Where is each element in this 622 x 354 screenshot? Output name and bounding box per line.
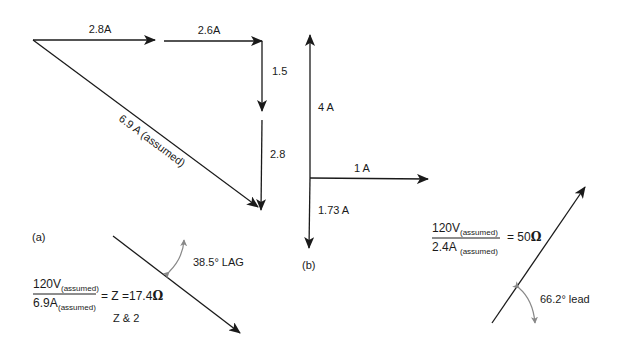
angle-arc-lead: [519, 288, 535, 323]
vector-4a-label: 4 A: [318, 101, 335, 113]
vector-2-8-label: 2.8: [270, 148, 285, 160]
vector-1-73a: [309, 178, 310, 248]
part-b-impedance-formula: 120V (assumed) 2.4A (assumed) = 50Ω: [432, 221, 542, 256]
impedance-result: = Z =17.4Ω: [101, 289, 163, 303]
vector-2-8a-label: 2.8A: [89, 23, 112, 35]
impedance-result: = 50Ω: [507, 230, 542, 244]
numerator: 120V: [432, 221, 460, 235]
vector-2-8: [261, 120, 262, 210]
vector-2-6a-label: 2.6A: [198, 24, 221, 36]
vector-1-73a-label: 1.73 A: [318, 204, 350, 216]
numerator: 120V: [33, 277, 61, 291]
vector-6-9a-resultant: [33, 40, 258, 207]
part-a-impedance-formula: 120V (assumed) 6.9A (assumed) = Z =17.4Ω…: [33, 277, 163, 324]
numerator-subscript: (assumed): [460, 228, 498, 237]
part-b-caption: (b): [302, 259, 315, 271]
part-b-phasors: 4 A 1 A 1.73 A: [309, 35, 428, 248]
part-b-impedance-phasor: 66.2° lead: [492, 187, 590, 323]
diagram-svg: 2.8A 2.6A 1.5 2.8 6.9 A (assumed) (a) 38…: [0, 0, 622, 354]
vector-1a-label: 1 A: [354, 162, 371, 174]
denominator-subscript: (assumed): [460, 247, 498, 256]
denominator: 6.9A: [33, 296, 58, 310]
vector-1-5-label: 1.5: [272, 65, 287, 77]
vector-6-9a-label: 6.9 A (assumed): [117, 112, 188, 169]
angle-label-lag: 38.5° LAG: [193, 256, 244, 268]
vector-1a: [310, 178, 428, 179]
angle-label-lead: 66.2° lead: [540, 293, 590, 305]
part-a-caption: (a): [32, 231, 45, 243]
impedance-note: Z & 2: [113, 312, 139, 324]
denominator-subscript: (assumed): [58, 303, 96, 312]
numerator-subscript: (assumed): [61, 284, 99, 293]
part-a-triangle: 2.8A 2.6A 1.5 2.8 6.9 A (assumed): [33, 23, 287, 210]
phasor-diagram: 2.8A 2.6A 1.5 2.8 6.9 A (assumed) (a) 38…: [0, 0, 622, 354]
denominator: 2.4A: [432, 240, 457, 254]
angle-arc-lag: [169, 240, 184, 272]
